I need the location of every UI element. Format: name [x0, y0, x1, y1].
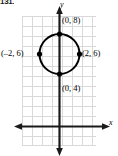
- x-axis-label: x: [109, 119, 113, 127]
- coordinate-plane-figure: 131.: [0, 0, 118, 156]
- graph-canvas: [0, 0, 118, 156]
- point-label-top: (0, 8): [62, 16, 80, 25]
- point-marker-top: [57, 31, 62, 36]
- point-marker-left: [37, 51, 42, 56]
- point-label-left: (–2, 6): [1, 49, 24, 58]
- point-marker-bottom: [57, 71, 62, 76]
- y-axis-label: y: [60, 1, 64, 9]
- point-label-bottom: (0, 4): [62, 84, 80, 93]
- point-label-right: (2, 6): [82, 49, 100, 58]
